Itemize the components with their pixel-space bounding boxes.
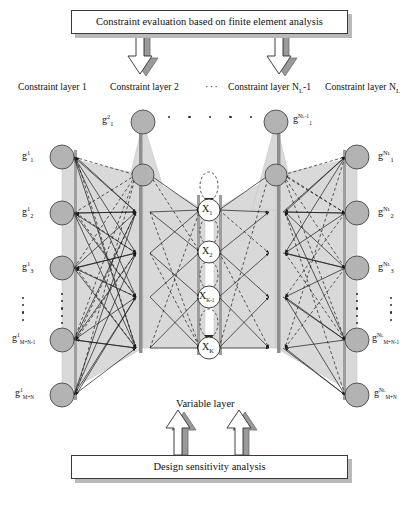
node-label-g1-layer2: g21 xyxy=(102,114,113,128)
constraint-evaluation-box[interactable]: Constraint evaluation based on finite el… xyxy=(71,10,348,34)
left-label-ellipsis xyxy=(22,292,25,326)
right-column-ellipsis xyxy=(356,288,359,329)
bottom-arrow-left xyxy=(166,410,196,455)
caption-constraint-layer-1: Constraint layer 1 xyxy=(18,82,87,92)
bottom-arrow-right xyxy=(227,410,257,455)
caption-constraint-layer-2: Constraint layer 2 xyxy=(110,82,179,92)
variable-node-label-x2: X2 xyxy=(202,246,212,258)
top-arrow-left xyxy=(128,34,158,76)
design-sensitivity-box[interactable]: Design sensitivity analysis xyxy=(71,455,348,479)
left-column-ellipsis xyxy=(61,288,64,329)
variable-layer-label: Variable layer xyxy=(176,399,235,410)
node-label-g2-layernl: gNL2 xyxy=(378,206,394,220)
caption-constraint-layer-nl: Constraint layer NL xyxy=(325,82,400,95)
constraint-evaluation-label: Constraint evaluation based on finite el… xyxy=(96,17,323,28)
node-label-gmn-layer1: g1M+N xyxy=(15,388,34,401)
caption-layer-ellipsis: ··· xyxy=(205,82,219,92)
right-label-ellipsis xyxy=(390,292,393,326)
design-sensitivity-label: Design sensitivity analysis xyxy=(154,462,266,473)
node-label-gmn1-layernl: gNLM+N-1 xyxy=(372,333,399,346)
top-arrow-right xyxy=(267,34,297,76)
variable-node-label-x1: X1 xyxy=(202,204,212,216)
node-label-g1-layernl: gNL1 xyxy=(378,150,394,164)
node-label-g3-layer1: g13 xyxy=(22,261,33,275)
node-label-g3-layernl: gNL3 xyxy=(378,261,394,275)
variable-node-label-xk-1: XK-1 xyxy=(199,291,214,303)
variable-node-label-xk: XK xyxy=(202,342,214,354)
node-label-gmn-layernl: gNLM+N xyxy=(374,388,397,401)
top-horizontal-ellipsis xyxy=(168,116,270,118)
node-label-g2-layer1: g12 xyxy=(22,206,33,220)
node-label-g1-layernl-minus-1: gNL-11 xyxy=(293,114,312,127)
node-label-g1-layer1: g11 xyxy=(22,150,33,164)
node-label-gmn1-layer1: g1M+N-1 xyxy=(12,333,35,346)
caption-constraint-layer-nl-minus-1: Constraint layer NL-1 xyxy=(228,82,311,95)
